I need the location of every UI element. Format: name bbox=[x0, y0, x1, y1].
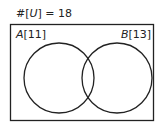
set-a-label: A[11] bbox=[16, 29, 46, 40]
venn-diagram bbox=[0, 0, 163, 125]
set-b-circle bbox=[82, 43, 152, 113]
set-a-name: A bbox=[16, 28, 24, 41]
set-a-circle bbox=[24, 43, 94, 113]
set-a-count: [11] bbox=[24, 28, 47, 41]
set-b-count: [13] bbox=[129, 28, 152, 41]
set-b-name: B bbox=[121, 28, 129, 41]
set-b-label: B[13] bbox=[121, 29, 151, 40]
